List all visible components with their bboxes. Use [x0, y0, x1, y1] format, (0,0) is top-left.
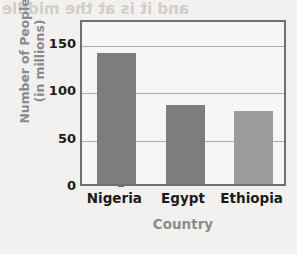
y-axis-tick-label: 150 [49, 37, 76, 50]
x-axis-tick-label: Nigeria [80, 190, 149, 206]
bar [97, 53, 136, 184]
bar-chart-figure: Number of People (in millions) 050100150… [0, 0, 297, 254]
y-axis-tick-label: 0 [67, 179, 76, 192]
x-axis-tick-label: Egypt [149, 190, 218, 206]
y-axis-tick-label: 100 [49, 84, 76, 97]
y-axis-tick-labels: 050100150 [44, 20, 76, 186]
y-axis-tick-mark [118, 186, 124, 187]
bar [234, 111, 273, 184]
bar-series [82, 22, 284, 184]
bar [166, 105, 205, 184]
plot-area [80, 20, 286, 186]
x-axis-tick-labels: NigeriaEgyptEthiopia [80, 190, 286, 210]
y-axis-tick-label: 50 [58, 132, 76, 145]
x-axis-tick-label: Ethiopia [217, 190, 286, 206]
y-axis-title: Number of People (in millions) [17, 0, 47, 131]
x-axis-title: Country [80, 216, 286, 232]
y-axis-title-line-1: Number of People [17, 0, 32, 131]
